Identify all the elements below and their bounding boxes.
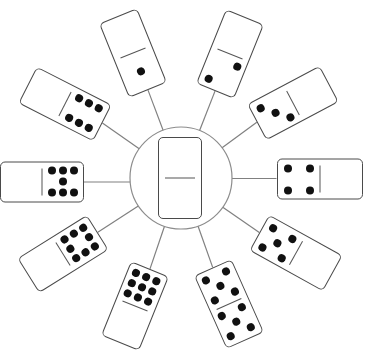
pip	[78, 223, 89, 234]
pip	[48, 167, 56, 175]
pip	[48, 189, 56, 197]
pip	[90, 241, 101, 252]
pip	[151, 277, 161, 287]
pip	[70, 167, 78, 175]
domino-outer-half	[320, 159, 362, 198]
pip	[210, 295, 221, 306]
spoke	[102, 123, 139, 149]
pip	[284, 164, 292, 172]
pip	[246, 322, 257, 333]
pip	[80, 247, 91, 258]
pip	[73, 118, 84, 129]
pip	[277, 253, 288, 264]
pip	[63, 113, 74, 124]
domino-outer-half	[1, 163, 42, 202]
pip	[93, 103, 104, 114]
spoke	[148, 90, 163, 130]
pip	[69, 229, 80, 240]
pip	[73, 93, 84, 104]
pip	[123, 289, 133, 299]
pip	[70, 189, 78, 197]
pip	[217, 311, 228, 322]
pip	[284, 186, 292, 194]
pip	[147, 287, 157, 297]
spoke	[150, 226, 165, 269]
pip	[258, 242, 269, 253]
pip	[84, 232, 95, 243]
pip	[270, 107, 281, 118]
pip	[59, 178, 67, 186]
spoke	[200, 91, 215, 130]
pip	[143, 297, 153, 307]
pip	[230, 286, 241, 297]
pip	[232, 61, 242, 71]
pip	[83, 98, 94, 109]
pip	[232, 317, 243, 328]
pip	[226, 331, 237, 342]
pip	[221, 266, 232, 277]
pip	[65, 244, 76, 255]
pip	[273, 238, 284, 249]
spoke	[222, 122, 257, 148]
pip	[133, 293, 143, 303]
pip	[285, 112, 296, 123]
hub-domino	[158, 137, 202, 219]
pip	[59, 167, 67, 175]
domino-right	[277, 158, 363, 199]
pip	[255, 102, 266, 113]
pip	[306, 164, 314, 172]
pip	[59, 234, 70, 245]
pip	[71, 253, 82, 264]
pip	[268, 223, 279, 234]
spoke	[198, 226, 213, 267]
pip	[141, 273, 151, 283]
pip	[216, 281, 227, 292]
pip	[137, 283, 147, 293]
pip	[237, 302, 248, 313]
pip	[131, 268, 141, 278]
pip	[127, 279, 137, 289]
domino-bottom-half	[159, 178, 201, 218]
pip	[201, 275, 212, 286]
pip	[306, 186, 314, 194]
spoke	[223, 207, 259, 232]
domino-inner-half	[42, 163, 83, 202]
domino-wheel	[0, 0, 375, 355]
pip	[288, 233, 299, 244]
domino-inner-half	[278, 159, 320, 198]
pip	[135, 66, 145, 76]
domino-left	[0, 162, 84, 203]
pip	[203, 73, 213, 83]
pip	[83, 123, 94, 134]
domino-top-half	[159, 138, 201, 178]
pip	[59, 189, 67, 197]
spoke	[98, 206, 139, 232]
